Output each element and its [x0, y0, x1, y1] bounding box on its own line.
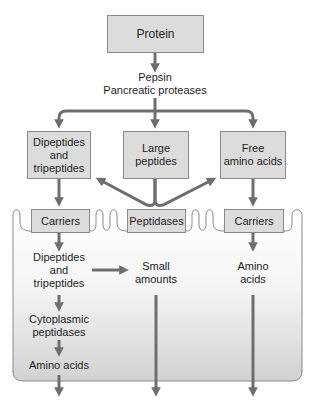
enzymes-label: Pepsin Pancreatic proteases: [85, 71, 225, 97]
carriers-right-box: Carriers: [224, 209, 284, 233]
arrow-enzymes-to-free-amino-acids: [155, 111, 253, 124]
free-amino-acids-label: Free amino acids: [224, 142, 283, 168]
arrow-enzymes-to-dipeptides: [59, 111, 155, 124]
cytoplasmic-peptidases-label: Cytoplasmic peptidases: [19, 313, 99, 339]
carriers-right-label: Carriers: [234, 215, 273, 228]
large-peptides-label: Large peptides: [135, 142, 177, 168]
dipeptides-tripeptides-cell-label: Dipeptides and tripeptides: [24, 251, 94, 290]
protein-box: Protein: [107, 15, 204, 53]
peptidases-box: Peptidases: [127, 209, 186, 233]
carriers-left-box: Carriers: [31, 209, 90, 233]
amino-acids-right-label: Amino acids: [223, 260, 283, 286]
arrow-peptidases-to-free-amino-acids: [155, 179, 212, 205]
peptidases-label: Peptidases: [129, 215, 183, 228]
amino-acids-left-label: Amino acids: [19, 359, 99, 372]
free-amino-acids-box: Free amino acids: [220, 131, 286, 179]
arrow-peptidases-to-dipeptides: [100, 179, 155, 205]
small-amounts-label: Small amounts: [126, 260, 186, 286]
diagram-graphics: [0, 0, 315, 402]
dipeptides-tripeptides-lumen-box: Dipeptides and tripeptides: [27, 131, 91, 179]
carriers-left-label: Carriers: [41, 215, 80, 228]
large-peptides-box: Large peptides: [123, 131, 189, 179]
dipeptides-tripeptides-lumen-label: Dipeptides and tripeptides: [33, 136, 85, 175]
protein-label: Protein: [136, 28, 174, 41]
protein-digestion-diagram: Protein Pepsin Pancreatic proteases Dipe…: [0, 0, 315, 402]
